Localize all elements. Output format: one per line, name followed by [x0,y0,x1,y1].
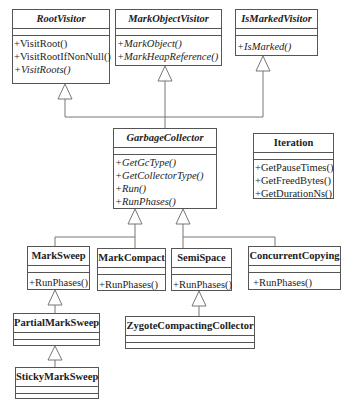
class-concurrent-copying: ConcurrentCopying +RunPhases() [248,246,341,290]
class-semi-space: SemiSpace +RunPhases() [171,248,232,291]
class-root-visitor: RootVisitor +VisitRoot() +VisitRootIfNon… [12,9,110,84]
class-name: Iteration [254,134,333,153]
generalization-arrow-gc-right [176,209,190,224]
attributes-compartment [249,266,340,273]
method: +GetFreedBytes() [255,174,333,187]
generalization-arrow-markobjectvisitor [158,66,172,81]
attributes-compartment [14,333,99,340]
method: +Run() [115,182,216,195]
class-name: ConcurrentCopying [249,247,340,266]
class-name: MarkCompact [98,249,165,268]
methods-compartment: +IsMarked() [236,36,317,55]
class-name: MarkObjectVisitor [116,10,221,29]
class-name: ZygoteCompactingCollector [126,317,254,336]
class-partial-mark-sweep: PartialMarkSweep [13,313,100,346]
method: +GetDurationNs() [255,187,333,200]
method: +IsMarked() [237,40,317,53]
class-garbage-collector: GarbageCollector +GetGcType() +GetCollec… [113,128,217,209]
method: +RunPhases() [253,276,340,289]
methods-compartment: +MarkObject() +MarkHeapReference() [116,36,221,65]
class-name: SemiSpace [172,249,231,268]
class-mark-sweep: MarkSweep +RunPhases() [27,246,90,290]
attributes-compartment [114,148,216,155]
attributes-compartment [98,268,165,275]
method: +VisitRootIfNonNull() [14,50,109,63]
methods-compartment: +GetGcType() +GetCollectorType() +Run() … [114,155,216,210]
class-mark-compact: MarkCompact +RunPhases() [97,248,166,291]
methods-compartment: +RunPhases() [172,275,231,293]
generalization-arrow-ismarkedvisitor [256,56,270,71]
method: +GetPauseTimes() [255,161,333,174]
method: +RunPhases() [29,276,89,289]
class-mark-object-visitor: MarkObjectVisitor +MarkObject() +MarkHea… [115,9,222,66]
methods-compartment [126,343,254,349]
generalization-arrow-gc-left [128,209,142,224]
class-name: RootVisitor [13,10,109,29]
class-iteration: Iteration +GetPauseTimes() +GetFreedByte… [253,133,334,199]
class-name: IsMarkedVisitor [236,10,317,29]
method: +MarkHeapReference() [117,50,221,63]
method: +GetCollectorType() [115,169,216,182]
class-name: MarkSweep [28,247,89,266]
methods-compartment: +VisitRoot() +VisitRootIfNonNull() +Visi… [13,36,109,78]
methods-compartment: +RunPhases() [28,273,89,291]
attributes-compartment [13,29,109,36]
method: +RunPhases() [173,278,231,291]
class-sticky-mark-sweep: StickyMarkSweep [15,367,99,399]
methods-compartment: +GetPauseTimes() +GetFreedBytes() +GetDu… [254,160,333,202]
attributes-compartment [126,336,254,343]
methods-compartment: +RunPhases() [249,273,340,291]
methods-compartment [16,394,98,400]
generalization-arrow-rootvisitor [58,84,72,99]
method: +RunPhases() [115,195,216,208]
method: +RunPhases() [99,278,165,291]
attributes-compartment [172,268,231,275]
attributes-compartment [254,153,333,160]
class-name: PartialMarkSweep [14,314,99,333]
methods-compartment: +RunPhases() [98,275,165,293]
attributes-compartment [16,387,98,394]
attributes-compartment [116,29,221,36]
methods-compartment [14,340,99,346]
method: +VisitRoot() [14,37,109,50]
method: +MarkObject() [117,37,221,50]
attributes-compartment [28,266,89,273]
class-name: StickyMarkSweep [16,368,98,387]
method: +VisitRoots() [14,63,109,76]
class-name: GarbageCollector [114,129,216,148]
class-zygote-compacting-collector: ZygoteCompactingCollector [125,316,255,349]
class-is-marked-visitor: IsMarkedVisitor +IsMarked() [235,9,318,56]
attributes-compartment [236,29,317,36]
method: +GetGcType() [115,156,216,169]
